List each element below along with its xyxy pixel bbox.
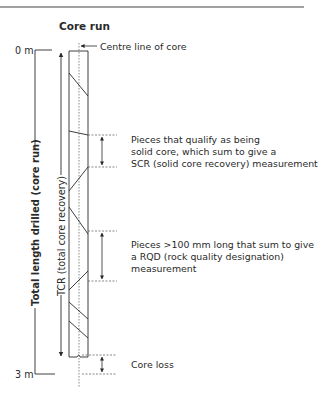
fractures [69, 73, 88, 338]
fracture [69, 73, 88, 96]
core-loss-label: Core loss [131, 359, 174, 370]
rqd-annotation-line1: Pieces >100 mm long that sum to give [131, 239, 314, 250]
core-loss-dimension [82, 355, 117, 374]
rqd-dimension [88, 231, 117, 281]
tcr-label: TCR (total core recovery) [56, 176, 67, 297]
scr-dimension [88, 135, 117, 167]
depth-top-label: 0 m [15, 45, 34, 56]
fracture [69, 321, 88, 338]
fracture [69, 207, 88, 234]
fracture [69, 271, 88, 290]
depth-bottom-label: 3 m [15, 369, 34, 380]
fracture [69, 302, 88, 319]
rqd-annotation-line3: measurement [131, 263, 197, 274]
total-length-label: Total length drilled (core run) [30, 139, 41, 306]
core-run-diagram: Core run 0 m 3 m Total length drilled (c… [0, 0, 319, 407]
rqd-annotation-line2: a RQD (rock quality designation) [131, 251, 284, 262]
scr-annotation-line1: Pieces that qualify as being [131, 134, 260, 145]
diagram-title: Core run [59, 20, 110, 32]
scr-annotation-line3: SCR (solid core recovery) measurement [131, 158, 318, 169]
fracture [69, 167, 88, 191]
centre-line-label: Centre line of core [100, 41, 187, 52]
scr-annotation-line2: solid core, which sum to give a [131, 146, 276, 157]
fracture [69, 131, 88, 135]
